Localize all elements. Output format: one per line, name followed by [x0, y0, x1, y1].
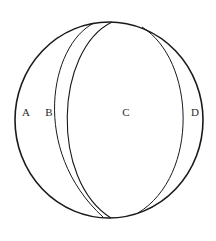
region-label-c: C	[122, 106, 129, 118]
arc-a-b-boundary	[55, 23, 103, 217]
arc-c-d-boundary	[138, 27, 183, 213]
region-label-d: D	[191, 106, 199, 118]
region-label-b: B	[45, 106, 52, 118]
region-label-a: A	[22, 106, 30, 118]
sphere-sections-diagram: A B C D	[0, 0, 216, 241]
arc-b-c-boundary	[67, 22, 112, 218]
outer-circle	[15, 22, 203, 218]
